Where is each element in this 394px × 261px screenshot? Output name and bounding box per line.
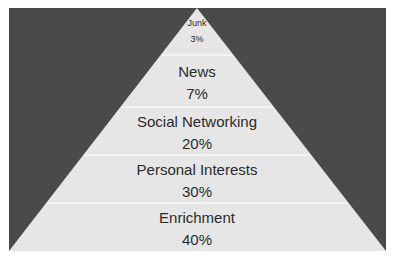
layer-value-label: 20% <box>182 135 212 152</box>
pyramid-chart: Junk3%News7%Social Networking20%Personal… <box>0 0 394 261</box>
layer-label: News <box>178 63 216 80</box>
layer-value-label: 7% <box>186 85 208 102</box>
layer-value-label: 40% <box>182 231 212 248</box>
layer-label: Social Networking <box>137 113 257 130</box>
layer-label: Enrichment <box>159 209 236 226</box>
layer-label: Junk <box>187 18 207 28</box>
layer-value-label: 30% <box>182 183 212 200</box>
layer-label: Personal Interests <box>137 161 258 178</box>
layer-value-label: 3% <box>190 34 203 44</box>
